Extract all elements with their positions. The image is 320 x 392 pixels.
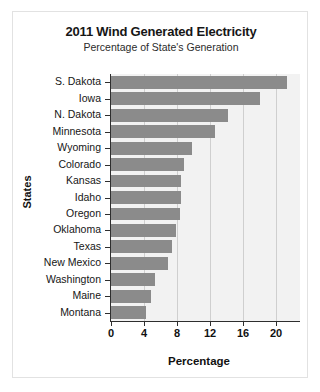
y-tick [105,165,110,166]
gridline [243,74,244,321]
x-tick [111,322,112,326]
y-tick-label: Kansas [13,174,101,186]
y-tick [105,198,110,199]
bar [111,224,176,237]
y-tick [105,181,110,182]
x-tick [144,322,145,326]
y-tick [105,99,110,100]
x-tick-label: 12 [195,327,225,339]
y-tick [105,280,110,281]
y-tick-label: Wyoming [13,141,101,153]
y-tick [105,313,110,314]
x-tick [276,322,277,326]
y-tick-label: Texas [13,240,101,252]
x-tick-label: 8 [162,327,192,339]
y-tick-label: Maine [13,289,101,301]
chart-figure: 2011 Wind Generated Electricity Percenta… [12,11,308,378]
y-tick-label: New Mexico [13,256,101,268]
y-tick-label: S. Dakota [13,75,101,87]
bar [111,290,151,303]
y-tick [105,247,110,248]
y-tick [105,230,110,231]
bar [111,125,215,138]
bar [111,109,228,122]
bar [111,92,260,105]
bar [111,306,146,319]
y-tick [105,82,110,83]
x-axis-line [110,321,300,322]
bar [111,191,181,204]
x-tick [210,322,211,326]
y-tick [105,115,110,116]
bar [111,158,184,171]
x-tick [243,322,244,326]
y-tick-label: Idaho [13,191,101,203]
x-tick-label: 4 [129,327,159,339]
gridline [276,74,277,321]
y-axis-line [110,74,111,322]
x-tick [177,322,178,326]
y-tick-label: Minnesota [13,125,101,137]
bar [111,273,155,286]
bar [111,240,172,253]
chart-title: 2011 Wind Generated Electricity [13,24,309,39]
y-tick-label: Iowa [13,92,101,104]
y-tick-label: Montana [13,306,101,318]
bar [111,142,192,155]
bar [111,208,180,221]
y-tick-label: Oklahoma [13,223,101,235]
x-tick-label: 0 [96,327,126,339]
y-tick-label: Washington [13,273,101,285]
y-tick-label: Oregon [13,207,101,219]
y-tick [105,296,110,297]
bar [111,257,168,270]
x-tick-label: 16 [228,327,258,339]
x-tick-label: 20 [261,327,291,339]
y-tick [105,214,110,215]
y-tick [105,148,110,149]
x-axis-label: Percentage [99,355,299,367]
y-tick [105,263,110,264]
bar [111,175,181,188]
y-tick [105,132,110,133]
y-tick-label: Colorado [13,158,101,170]
bar [111,76,287,89]
chart-subtitle: Percentage of State's Generation [13,41,309,53]
y-tick-label: N. Dakota [13,108,101,120]
